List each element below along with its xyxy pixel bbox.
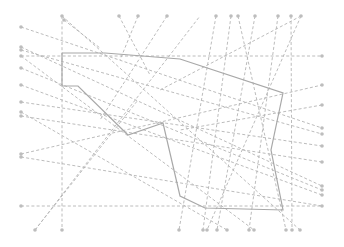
connection-line	[203, 16, 231, 230]
pin-bottom-icon	[215, 228, 219, 232]
pin-top-icon	[299, 14, 303, 18]
pin-right-icon	[320, 160, 324, 164]
pin-left-icon	[19, 25, 23, 29]
connection-line	[238, 16, 286, 230]
pin-bottom-icon	[177, 228, 181, 232]
pin-right-icon	[320, 144, 324, 148]
pin-top-icon	[62, 18, 66, 22]
connection-line	[217, 16, 255, 230]
pin-left-icon	[19, 114, 23, 118]
pin-left-icon	[19, 204, 23, 208]
pin-left-icon	[19, 54, 23, 58]
pin-bottom-icon	[284, 228, 288, 232]
pin-bottom-icon	[298, 228, 302, 232]
pin-top-icon	[214, 14, 218, 18]
routing-diagram-canvas	[0, 0, 344, 247]
pin-top-icon	[253, 14, 257, 18]
pin-top-icon	[229, 14, 233, 18]
pin-bottom-icon	[247, 228, 251, 232]
pin-right-icon	[320, 126, 324, 130]
pin-top-icon	[117, 14, 121, 18]
connection-line	[21, 27, 322, 128]
connection-line	[35, 100, 138, 230]
pin-right-icon	[320, 132, 324, 136]
pin-bottom-icon	[205, 228, 209, 232]
connection-line	[180, 105, 322, 130]
connection-line	[21, 47, 322, 186]
pin-bottom-icon	[60, 228, 64, 232]
connection-line	[62, 16, 300, 230]
pin-bottom-icon	[33, 228, 37, 232]
pin-right-icon	[320, 204, 324, 208]
pin-bottom-icon	[290, 228, 294, 232]
pin-left-icon	[19, 66, 23, 70]
pin-left-icon	[19, 100, 23, 104]
connection-line	[291, 16, 292, 230]
pin-right-icon	[320, 54, 324, 58]
pin-top-icon	[276, 14, 280, 18]
connection-line	[160, 16, 301, 90]
pin-left-icon	[19, 110, 23, 114]
connection-line	[35, 16, 200, 230]
pin-right-icon	[320, 103, 324, 107]
pin-top-icon	[60, 14, 64, 18]
pin-top-icon	[165, 14, 169, 18]
pin-right-icon	[320, 188, 324, 192]
pin-left-icon	[19, 48, 23, 52]
pin-right-icon	[320, 83, 324, 87]
pin-top-icon	[236, 14, 240, 18]
pin-left-icon	[19, 83, 23, 87]
connection-line	[207, 16, 301, 230]
pin-bottom-icon	[225, 228, 229, 232]
pin-bottom-icon	[252, 228, 256, 232]
pin-left-icon	[19, 155, 23, 159]
pin-right-icon	[320, 193, 324, 197]
pin-bottom-icon	[201, 228, 205, 232]
pin-top-icon	[289, 14, 293, 18]
pin-right-icon	[320, 184, 324, 188]
pin-top-icon	[136, 14, 140, 18]
